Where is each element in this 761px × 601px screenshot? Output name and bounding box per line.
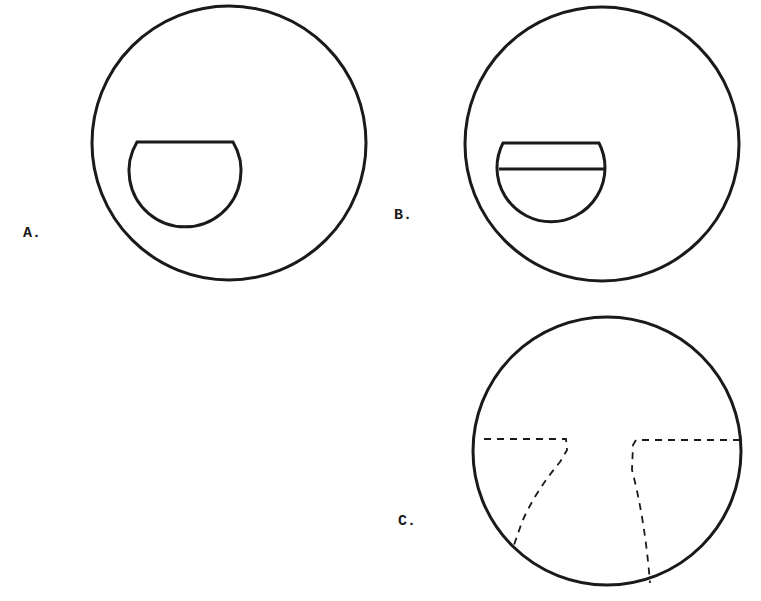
panel-b — [465, 7, 739, 281]
panel-c-label: C. — [398, 513, 416, 530]
panel-c-outer-circle — [473, 317, 741, 585]
panel-a-inset-shape — [129, 142, 241, 227]
panel-c-right-dashed-outline — [632, 440, 740, 583]
panel-b-label: B. — [394, 207, 412, 224]
panel-a — [92, 6, 366, 280]
panel-a-label: A. — [23, 225, 41, 242]
panel-b-inset-shape — [497, 143, 605, 222]
figure-canvas — [0, 0, 761, 601]
panel-c — [473, 317, 741, 585]
